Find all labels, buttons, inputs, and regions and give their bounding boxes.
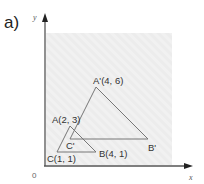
- coordinate-diagram: a) y x 0 A(2, 3) B(4, 1) C(1, 1) A'(4, 6…: [0, 0, 204, 184]
- vertex-label-b: B(4, 1): [99, 148, 128, 159]
- vertex-label-b-prime: B': [148, 142, 156, 153]
- x-axis-label: x: [188, 173, 193, 182]
- y-axis-arrow-icon: [42, 13, 48, 22]
- vertex-label-a: A(2, 3): [52, 114, 81, 125]
- vertex-label-a-prime: A'(4, 6): [93, 75, 123, 86]
- vertex-label-c-prime: C': [66, 140, 75, 151]
- y-axis-label: y: [32, 13, 37, 22]
- part-label: a): [4, 13, 19, 32]
- origin-label: 0: [32, 171, 37, 180]
- x-axis-arrow-icon: [184, 163, 193, 169]
- vertex-label-c: C(1, 1): [47, 153, 76, 164]
